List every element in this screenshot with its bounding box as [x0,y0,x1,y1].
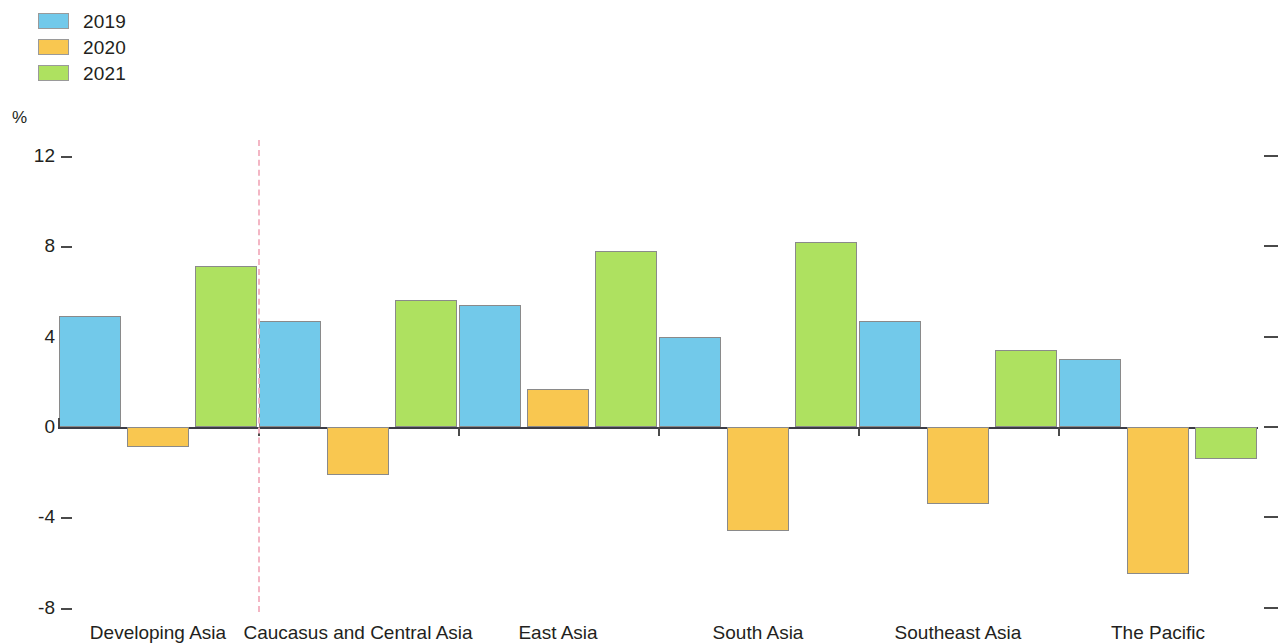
bar-2019-the-pacific [1059,359,1121,427]
y-axis-tick-label: -4 [38,506,55,527]
bar-2021-east-asia [595,251,657,427]
x-axis-label-east-asia: East Asia [518,622,597,644]
bar-2019-east-asia [459,305,521,427]
y-axis-tick-mark-right [1264,516,1278,518]
bar-2020-southeast-asia [927,427,989,504]
y-axis-tick-8: 8 [0,235,72,257]
y-axis-tick-mark [61,517,72,519]
x-axis-label-southeast-asia: Southeast Asia [895,622,1022,644]
bar-2020-south-asia [727,427,789,531]
y-axis-tick-mark-right [1264,155,1278,157]
y-axis-tick-neg8: -8 [0,597,72,619]
y-axis-tick-label: 4 [44,326,55,347]
bar-2020-developing-asia [127,427,189,447]
y-axis-tick-12: 12 [0,145,72,167]
y-axis-tick-mark [61,246,72,248]
bar-2020-the-pacific [1127,427,1189,574]
x-axis-label-south-asia: South Asia [713,622,804,644]
x-axis-label-developing-asia: Developing Asia [90,622,226,644]
bar-2021-the-pacific [1195,427,1257,459]
x-axis-tick-mark [1058,427,1060,436]
bar-2019-south-asia [659,337,721,427]
y-axis-tick-mark-right [1264,426,1278,428]
y-axis-tick-mark-right [1264,607,1278,609]
x-axis-tick-mark-origin [58,418,60,427]
bar-2021-developing-asia [195,266,257,427]
x-axis-tick-mark [858,427,860,436]
y-axis-tick-mark [61,608,72,610]
x-axis-tick-mark [658,427,660,436]
bar-2019-developing-asia [59,316,121,427]
group-divider-line [258,140,260,612]
bar-2021-south-asia [795,242,857,427]
y-axis-tick-label: 0 [44,416,55,437]
bar-2021-southeast-asia [995,350,1057,427]
bar-2019-southeast-asia [859,321,921,427]
bar-2019-caucasus-and-central-asia [259,321,321,427]
y-axis-tick-label: 8 [44,235,55,256]
bar-2020-east-asia [527,389,589,427]
y-axis-tick-mark-right [1264,336,1278,338]
x-axis-label-caucasus-and-central-asia: Caucasus and Central Asia [243,622,472,644]
y-axis-tick-mark [61,156,72,158]
y-axis-tick-label: 12 [34,145,55,166]
x-axis-tick-mark [458,427,460,436]
y-axis-tick-label: -8 [38,597,55,618]
x-axis-label-the-pacific: The Pacific [1111,622,1205,644]
y-axis-tick-mark-right [1264,245,1278,247]
y-axis-tick-neg4: -4 [0,506,72,528]
bar-2021-caucasus-and-central-asia [395,300,457,427]
bar-2020-caucasus-and-central-asia [327,427,389,475]
